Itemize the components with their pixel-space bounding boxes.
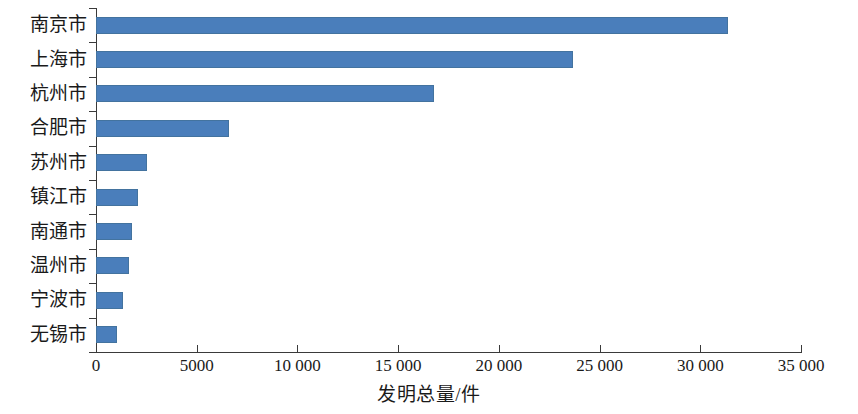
y-axis-tick: [89, 318, 97, 319]
bar-rows: [96, 8, 801, 352]
x-axis-tick: [398, 345, 399, 353]
bar-row: [96, 77, 801, 111]
bar: [96, 154, 147, 171]
x-axis-tick: [499, 345, 500, 353]
category-label: 苏州市: [0, 146, 92, 180]
bar: [96, 189, 138, 206]
x-axis-tick: [600, 345, 601, 353]
y-axis-tick: [89, 42, 97, 43]
bar: [96, 17, 728, 34]
bar-chart: 南京市上海市杭州市合肥市苏州市镇江市南通市温州市宁波市无锡市 0500010 0…: [0, 0, 858, 414]
x-axis-tick-label: 20 000: [475, 356, 522, 376]
x-axis-tick: [700, 345, 701, 353]
y-axis-tick: [89, 111, 97, 112]
x-axis-tick-label: 35 000: [778, 356, 825, 376]
bar: [96, 326, 117, 343]
category-label: 杭州市: [0, 77, 92, 111]
y-axis-tick: [89, 283, 97, 284]
category-axis-labels: 南京市上海市杭州市合肥市苏州市镇江市南通市温州市宁波市无锡市: [0, 8, 92, 352]
bar: [96, 85, 434, 102]
bar-row: [96, 146, 801, 180]
category-label: 温州市: [0, 249, 92, 283]
x-axis-tick-label: 25 000: [576, 356, 623, 376]
x-axis-tick-label: 15 000: [375, 356, 422, 376]
category-label-text: 南京市: [30, 15, 92, 35]
category-label-text: 南通市: [30, 222, 92, 242]
category-label: 镇江市: [0, 180, 92, 214]
bar-row: [96, 42, 801, 76]
x-axis-tick: [197, 345, 198, 353]
x-axis-tick-label: 0: [92, 356, 101, 376]
x-axis-tick: [801, 345, 802, 353]
y-axis-tick: [89, 77, 97, 78]
x-axis-tick-label: 10 000: [274, 356, 321, 376]
category-label-text: 无锡市: [30, 325, 92, 345]
category-label: 南京市: [0, 8, 92, 42]
x-axis-tick-label: 30 000: [677, 356, 724, 376]
bar-row: [96, 249, 801, 283]
bar: [96, 51, 573, 68]
bar: [96, 120, 229, 137]
bar-row: [96, 214, 801, 248]
category-label: 上海市: [0, 42, 92, 76]
category-label-text: 温州市: [30, 256, 92, 276]
category-label: 南通市: [0, 214, 92, 248]
y-axis-tick: [89, 214, 97, 215]
bar: [96, 223, 132, 240]
x-axis-tick-label: 5000: [180, 356, 214, 376]
x-axis-title: 发明总量/件: [0, 384, 858, 406]
bar-row: [96, 318, 801, 352]
bar: [96, 292, 123, 309]
category-label-text: 杭州市: [30, 84, 92, 104]
x-axis-tick: [96, 345, 97, 353]
y-axis-tick: [89, 8, 97, 9]
category-label-text: 镇江市: [30, 187, 92, 207]
y-axis-tick: [89, 146, 97, 147]
y-axis-tick: [89, 249, 97, 250]
category-label-text: 合肥市: [30, 118, 92, 138]
category-label-text: 宁波市: [30, 290, 92, 310]
bar-row: [96, 111, 801, 145]
category-label: 无锡市: [0, 318, 92, 352]
plot-area: [96, 8, 801, 352]
bar-row: [96, 283, 801, 317]
bar-row: [96, 8, 801, 42]
y-axis-tick: [89, 180, 97, 181]
x-axis-line: [96, 352, 802, 353]
category-label-text: 上海市: [30, 50, 92, 70]
category-label-text: 苏州市: [30, 153, 92, 173]
x-axis-tick: [297, 345, 298, 353]
bar: [96, 257, 129, 274]
category-label: 合肥市: [0, 111, 92, 145]
bar-row: [96, 180, 801, 214]
category-label: 宁波市: [0, 283, 92, 317]
